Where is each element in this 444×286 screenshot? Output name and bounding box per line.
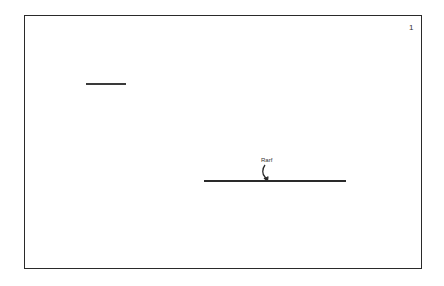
diagram-frame [24,15,422,269]
annotation-label: Rarf [261,157,272,164]
curved-arrow-icon [260,164,272,182]
page-number: 1 [409,23,413,33]
short-line [86,83,126,85]
long-line [204,180,346,182]
